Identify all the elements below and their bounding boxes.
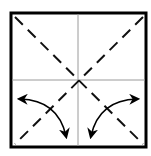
origami-diagram [0,0,151,156]
